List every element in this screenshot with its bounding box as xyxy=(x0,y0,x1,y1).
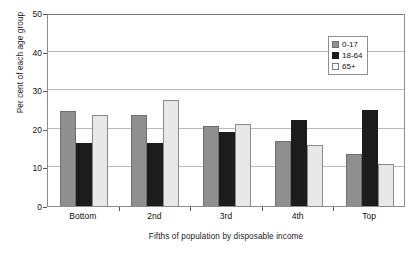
x-tick-mark xyxy=(333,207,334,211)
bar xyxy=(362,110,378,207)
bar xyxy=(378,164,394,206)
y-tick-mark xyxy=(43,130,47,131)
bar xyxy=(291,120,307,206)
bar xyxy=(203,126,219,206)
bar xyxy=(307,145,323,206)
bar-group xyxy=(48,15,120,206)
x-tick-label: 4th xyxy=(292,211,304,221)
bar xyxy=(163,100,179,206)
y-axis-title: Per cent of each age group xyxy=(16,0,25,143)
bar xyxy=(60,111,76,206)
y-tick-mark xyxy=(43,168,47,169)
bar-group xyxy=(191,15,263,206)
x-tick-mark xyxy=(119,207,120,211)
bar-chart: Per cent of each age group 01020304050 B… xyxy=(0,0,420,258)
y-tick-mark xyxy=(43,207,47,208)
x-tick-mark xyxy=(262,207,263,211)
legend-label: 18-64 xyxy=(342,51,362,60)
bar xyxy=(147,143,163,206)
legend-item: 18-64 xyxy=(332,51,362,60)
x-tick-label: 3rd xyxy=(220,211,232,221)
bar xyxy=(275,141,291,206)
legend-item: 65+ xyxy=(332,62,362,71)
bar xyxy=(346,154,362,206)
bar xyxy=(76,143,92,206)
legend-swatch-icon xyxy=(332,41,339,48)
bar-group xyxy=(120,15,192,206)
bar xyxy=(219,132,235,206)
y-tick-mark xyxy=(43,14,47,15)
legend-swatch-icon xyxy=(332,52,339,59)
y-tick-label: 20 xyxy=(8,125,47,135)
y-tick-label: 0 xyxy=(8,202,47,212)
legend-label: 0-17 xyxy=(342,40,358,49)
x-tick-mark xyxy=(190,207,191,211)
y-tick-mark xyxy=(43,53,47,54)
y-tick-label: 30 xyxy=(8,86,47,96)
bar xyxy=(92,115,108,206)
x-tick-label: Top xyxy=(362,211,376,221)
bar xyxy=(235,124,251,206)
legend: 0-1718-6465+ xyxy=(328,36,368,75)
x-axis-title: Fifths of population by disposable incom… xyxy=(47,232,405,241)
y-tick-mark xyxy=(43,91,47,92)
bar-group xyxy=(263,15,335,206)
bar xyxy=(131,115,147,206)
legend-label: 65+ xyxy=(342,62,356,71)
x-tick-label: 2nd xyxy=(147,211,161,221)
legend-swatch-icon xyxy=(332,63,339,70)
x-tick-label: Bottom xyxy=(69,211,96,221)
y-tick-label: 40 xyxy=(8,48,47,58)
legend-item: 0-17 xyxy=(332,40,362,49)
y-tick-label: 50 xyxy=(8,9,47,19)
y-tick-label: 10 xyxy=(8,163,47,173)
